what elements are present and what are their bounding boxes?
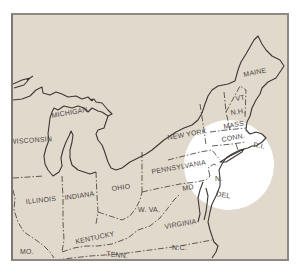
state-label-indiana: INDIANA	[64, 190, 95, 201]
state-label-maine: MAINE	[243, 66, 267, 78]
state-label-vt: VT	[235, 93, 246, 102]
state-label-illinois: ILLINOIS	[25, 195, 56, 205]
state-label-tenn: TENN.	[106, 250, 129, 259]
state-label-nc: N.C.	[172, 244, 187, 251]
state-label-wva: W. VA.	[138, 206, 160, 213]
map-drawing: MAINEVTN.H.MASS.CONN.R.I.NEW YORKMICHIGA…	[0, 0, 302, 276]
map-figure: MAINEVTN.H.MASS.CONN.R.I.NEW YORKMICHIGA…	[0, 0, 302, 276]
state-label-wisconsin: WISCONSIN	[10, 135, 53, 145]
state-label-ohio: OHIO	[111, 182, 131, 192]
state-label-mo: MO.	[20, 248, 34, 255]
lake-michigan-coast	[44, 112, 96, 176]
state-label-kentucky: KENTUCKY	[75, 230, 115, 245]
island-dot	[91, 99, 94, 102]
state-label-virginia: VIRGINIA	[164, 217, 197, 230]
state-label-nh: N.H.	[230, 107, 246, 116]
state-label-nj: N.	[215, 175, 222, 182]
